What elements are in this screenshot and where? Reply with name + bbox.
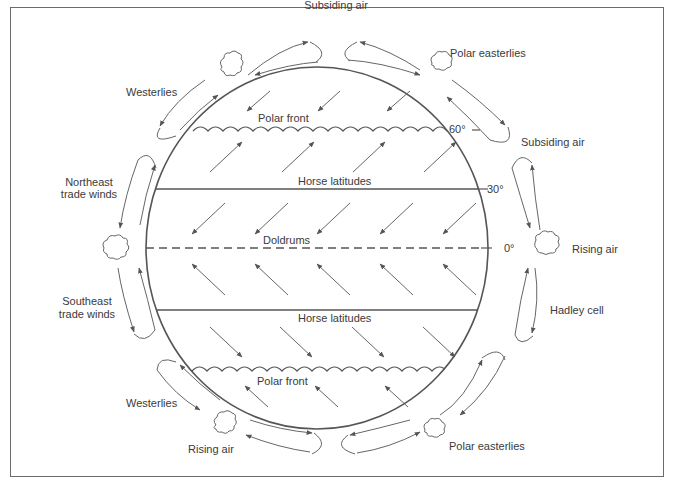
cloud-icon [431, 51, 452, 70]
label-latitude-60: 60° [449, 123, 466, 136]
label-doldrums: Doldrums [263, 234, 310, 247]
label-horse-latitudes-north: Horse latitudes [298, 175, 371, 188]
label-horse-latitudes-south: Horse latitudes [298, 312, 371, 325]
label-southeast-trade-winds-1: Southeast [62, 295, 112, 308]
label-subsiding-air-right: Subsiding air [521, 136, 585, 149]
cloud-icon [220, 51, 243, 76]
label-northeast-trade-winds-2: trade winds [61, 188, 117, 201]
cloud-icon [103, 235, 129, 259]
label-westerlies-bottom: Westerlies [126, 397, 177, 410]
cloud-icon [535, 231, 559, 255]
label-polar-front-bottom: Polar front [257, 375, 308, 388]
label-polar-front-top: Polar front [258, 112, 309, 125]
label-latitude-0: 0° [504, 242, 515, 255]
label-hadley-cell: Hadley cell [550, 304, 604, 317]
polar-front-north-wave [193, 127, 447, 131]
label-latitude-30: 30° [487, 183, 504, 196]
label-rising-air-right: Rising air [572, 243, 618, 256]
label-southeast-trade-winds-2: trade winds [59, 308, 115, 321]
surface-wind-arrows [192, 91, 476, 407]
cloud-icon [424, 418, 445, 437]
polar-front-south-wave [192, 367, 474, 372]
label-subsiding-air-top: Subsiding air [304, 0, 368, 12]
label-westerlies-top: Westerlies [126, 86, 177, 99]
label-polar-easterlies-bottom: Polar easterlies [449, 440, 525, 453]
label-rising-air-bottom: Rising air [188, 443, 234, 456]
label-polar-easterlies-top: Polar easterlies [450, 47, 526, 60]
cloud-icon [214, 411, 236, 434]
